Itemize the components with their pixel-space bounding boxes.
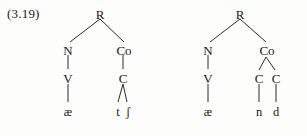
figure-syllable-structure-trees: (3.19) R N Co V C æ t ʃ R N Co V C C æ n… xyxy=(0,0,307,136)
tree-right-node-nucleus: N xyxy=(203,44,212,57)
edge-right-coda-to-c1 xyxy=(259,57,266,70)
tree-right-node-root: R xyxy=(236,8,245,21)
tree-right-leaf-coda-segment-1: n xyxy=(256,106,262,119)
tree-left-leaf-coda-segment-1: t xyxy=(116,106,119,119)
tree-left-node-coda: Co xyxy=(116,44,131,57)
tree-right-node-coda: Co xyxy=(259,44,274,57)
tree-left-node-root: R xyxy=(96,8,105,21)
edge-right-root-to-nucleus xyxy=(210,19,240,42)
tree-right-node-v: V xyxy=(203,72,212,85)
tree-left-node-nucleus: N xyxy=(63,44,72,57)
tree-left-leaf-nucleus-segment: æ xyxy=(64,106,72,119)
tree-right-node-c2: C xyxy=(272,72,281,85)
tree-right-node-c1: C xyxy=(255,72,264,85)
edge-right-root-to-coda xyxy=(240,19,266,42)
edge-left-root-to-coda xyxy=(100,19,124,42)
tree-left-leaf-coda-segment-2: ʃ xyxy=(126,106,130,119)
edge-right-coda-to-c2 xyxy=(266,57,275,70)
tree-left-node-c: C xyxy=(119,72,128,85)
edge-left-root-to-nucleus xyxy=(70,19,100,42)
edge-left-c-to-segment-t xyxy=(118,84,123,102)
tree-right-leaf-nucleus-segment: æ xyxy=(204,106,212,119)
edge-left-c-to-segment-esh xyxy=(123,84,127,102)
tree-left-node-v: V xyxy=(63,72,72,85)
tree-right-leaf-coda-segment-2: d xyxy=(273,106,279,119)
